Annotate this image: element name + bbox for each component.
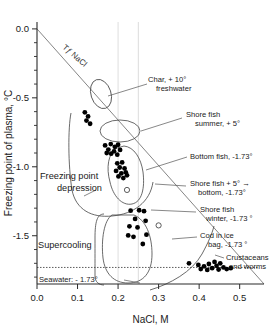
data-point xyxy=(114,169,119,174)
x-tick-label: 0.3 xyxy=(152,292,165,303)
data-point xyxy=(135,225,140,230)
tf-nacl-label: Tƒ NaCl xyxy=(61,43,89,69)
data-point xyxy=(156,223,161,228)
y-axis-ticks: 0.0-0.5-1.0-1.5 xyxy=(13,23,37,277)
data-point xyxy=(142,209,147,214)
y-tick-label: 0.0 xyxy=(16,23,29,34)
x-tick-label: 0.4 xyxy=(193,292,206,303)
y-tick-label: -1.5 xyxy=(13,230,29,241)
y-tick-label: -0.5 xyxy=(13,92,29,103)
leader-transition xyxy=(155,184,186,186)
annotation-shore-summer-line1: Shore fish xyxy=(186,110,220,119)
annotation-shore-winter-line1: Shore fish xyxy=(200,205,234,214)
annotation-bottom-fish: Bottom fish, -1.73° xyxy=(190,152,253,161)
data-point xyxy=(108,142,113,147)
envelope-char xyxy=(87,77,115,112)
data-point xyxy=(125,173,130,178)
leader-crustaceans xyxy=(215,255,224,258)
leader-cod xyxy=(172,237,197,239)
annotation-cod-line2: bag, -1.73 ° xyxy=(208,240,247,249)
data-point xyxy=(84,118,89,123)
x-tick-label: 0.2 xyxy=(111,292,124,303)
x-tick-label: 0.5 xyxy=(233,292,246,303)
data-point xyxy=(118,148,123,153)
data-point xyxy=(187,261,192,266)
annotation-shore-winter-line2: winter, -1.73 ° xyxy=(205,214,253,223)
envelope-supercooling xyxy=(102,215,152,283)
data-point xyxy=(109,151,114,156)
data-point xyxy=(124,187,129,192)
data-point xyxy=(103,143,108,148)
envelope-freezing-point-depression-outer xyxy=(69,113,153,216)
data-point xyxy=(116,174,121,179)
data-point xyxy=(128,208,133,213)
y-tick-label: -1.0 xyxy=(13,161,29,172)
data-point xyxy=(144,232,149,237)
annotation-supercooling: Supercooling xyxy=(38,240,92,250)
leader-shore-summer xyxy=(141,118,182,131)
x-tick-label: 0.0 xyxy=(30,292,43,303)
data-point xyxy=(133,217,138,222)
annotation-transition-line1: Shore fish + 5° → xyxy=(190,179,250,188)
data-point xyxy=(131,234,136,239)
annotation-shore-summer-line2: summer, + 5° xyxy=(195,119,240,128)
annotation-cod-line1: Cod in ice xyxy=(200,231,234,240)
data-point xyxy=(120,160,125,165)
annotation-char-line1: Char, + 10° xyxy=(148,75,186,84)
data-point xyxy=(216,267,221,272)
data-point xyxy=(117,165,122,170)
data-point xyxy=(115,152,120,157)
data-point xyxy=(127,224,132,229)
annotation-transition-line2: bottom, -1.73° xyxy=(198,188,246,197)
data-point xyxy=(206,262,211,267)
annotation-crustaceans-line1: Crustaceans xyxy=(226,253,269,262)
annotation-char-line2: freshwater xyxy=(156,84,192,93)
data-point xyxy=(210,266,215,271)
x-axis-title: NaCl, M xyxy=(132,314,168,325)
x-tick-label: 0.1 xyxy=(71,292,84,303)
x-axis-ticks: 0.00.10.20.30.40.5 xyxy=(30,284,246,303)
data-point xyxy=(202,264,207,269)
envelope-shore-fish-summer xyxy=(100,120,140,142)
data-point xyxy=(86,114,91,119)
data-point xyxy=(196,263,201,268)
data-point xyxy=(104,151,109,156)
y-axis-title: Freezing point of plasma, °C xyxy=(3,90,14,216)
chart-container: 0.00.10.20.30.40.5 0.0-0.5-1.0-1.5 NaCl,… xyxy=(0,0,274,331)
annotation-fpd-line1: Freezing point xyxy=(40,171,99,181)
data-point xyxy=(88,121,93,126)
data-point xyxy=(143,218,148,223)
data-point xyxy=(137,208,142,213)
data-point xyxy=(205,268,210,273)
scatter-plot: 0.00.10.20.30.40.5 0.0-0.5-1.0-1.5 NaCl,… xyxy=(0,0,274,331)
annotation-crustaceans-line2: and worms xyxy=(229,262,266,271)
leader-char xyxy=(108,84,147,96)
data-point xyxy=(126,233,131,238)
data-point xyxy=(140,242,145,247)
annotation-seawater: Seawater: - 1.73° xyxy=(39,275,98,284)
data-point xyxy=(116,142,121,147)
data-point xyxy=(218,261,223,266)
leader-shore-winter xyxy=(151,210,196,212)
annotation-fpd-line2: depression xyxy=(57,183,102,193)
data-point xyxy=(82,110,87,115)
data-point xyxy=(115,161,120,166)
